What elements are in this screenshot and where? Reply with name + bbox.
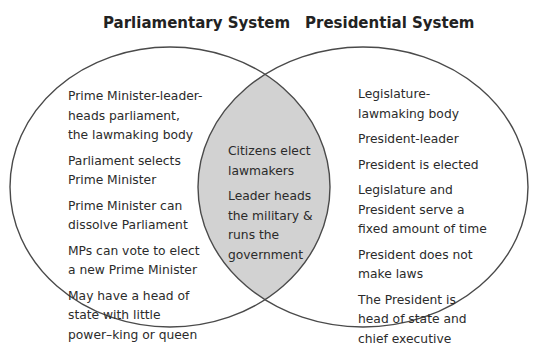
shared-item: Citizens elect lawmakers	[228, 142, 328, 181]
presidential-item: Legislature and President serve a fixed …	[358, 181, 488, 240]
parliamentary-item: Parliament selects Prime Minister	[68, 152, 203, 191]
parliamentary-item: Prime Minister can dissolve Parliament	[68, 197, 203, 236]
parliamentary-item: MPs can vote to elect a new Prime Minist…	[68, 242, 203, 281]
presidential-item: President does not make laws	[358, 246, 488, 285]
parliamentary-item: May have a head of state with little pow…	[68, 287, 203, 346]
presidential-item: President is elected	[358, 156, 488, 176]
parliamentary-only-region: Prime Minister-leader-heads parliament, …	[68, 87, 203, 347]
presidential-item: President-leader	[358, 130, 488, 150]
presidential-only-region: Legislature-lawmaking body President-lea…	[358, 85, 488, 347]
parliamentary-system-title: Parliamentary System	[103, 14, 290, 32]
shared-region: Citizens elect lawmakers Leader heads th…	[228, 142, 328, 271]
presidential-system-title: Presidential System	[305, 14, 475, 32]
presidential-item: The President is head of state and chief…	[358, 291, 488, 347]
presidential-item: Legislature-lawmaking body	[358, 85, 488, 124]
shared-item: Leader heads the military & runs the gov…	[228, 187, 328, 265]
parliamentary-item: Prime Minister-leader-heads parliament, …	[68, 87, 203, 146]
